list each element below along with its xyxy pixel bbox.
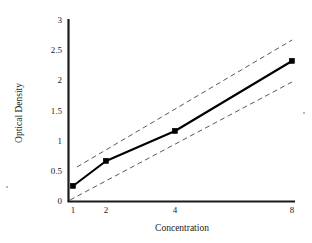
x-tick-label: 8 [290, 205, 295, 215]
y-tick-label: 0 [58, 196, 63, 206]
optical-density-scatter-chart: 3 2.5 2 1.5 1 0.5 0 1 2 4 8 Concentratio… [0, 0, 312, 243]
data-point-marker [103, 158, 108, 163]
y-tick-label: 0.5 [51, 166, 63, 176]
chart-container: 3 2.5 2 1.5 1 0.5 0 1 2 4 8 Concentratio… [0, 0, 312, 243]
y-tick-label: 2 [58, 75, 63, 85]
chart-background [0, 0, 312, 243]
y-tick-label: 2.5 [51, 45, 63, 55]
x-axis-title: Concentration [155, 223, 209, 233]
data-point-marker [289, 58, 294, 63]
data-point-marker [172, 128, 177, 133]
x-tick-label: 4 [173, 205, 178, 215]
y-tick-label: 1.5 [51, 106, 63, 116]
y-axis-title: Optical Density [14, 83, 24, 143]
x-tick-label: 2 [104, 205, 109, 215]
x-tick-label: 1 [71, 205, 76, 215]
data-point-marker [70, 183, 75, 188]
y-tick-label: 1 [58, 136, 63, 146]
scan-speck [6, 186, 8, 188]
scan-speck [303, 112, 305, 114]
y-tick-label: 3 [58, 15, 63, 25]
